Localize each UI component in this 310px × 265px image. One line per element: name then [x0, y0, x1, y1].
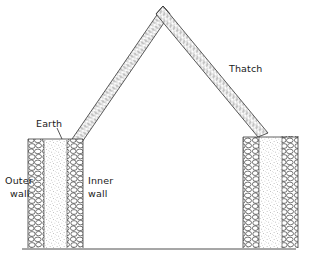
label-inner-wall-line1: Inner	[88, 175, 113, 186]
thatch-roof-left-slope	[70, 6, 170, 145]
thatch-roof	[70, 6, 268, 145]
label-outer-wall-line2: wall	[10, 188, 29, 199]
right-wall-earth-core	[259, 137, 282, 248]
left-wall-earth-core	[44, 140, 67, 248]
left-wall-assembly	[28, 139, 83, 248]
earth-leader-line	[57, 128, 62, 139]
left-outer-wall-stones	[28, 139, 44, 248]
thatch-left-band	[70, 6, 170, 145]
label-inner-wall-line2: wall	[88, 188, 107, 199]
label-thatch: Thatch	[228, 63, 263, 74]
diagram-canvas: Thatch Earth Outer wall Inner wall	[0, 0, 310, 265]
label-outer-wall-line1: Outer	[5, 175, 33, 186]
house-cross-section-diagram: Thatch Earth Outer wall Inner wall	[0, 0, 310, 265]
right-outer-wall-stones	[282, 136, 298, 248]
label-earth: Earth	[36, 118, 62, 129]
right-wall-assembly	[243, 136, 298, 248]
right-inner-wall-stones	[243, 137, 259, 248]
left-inner-wall-stones	[67, 139, 83, 248]
